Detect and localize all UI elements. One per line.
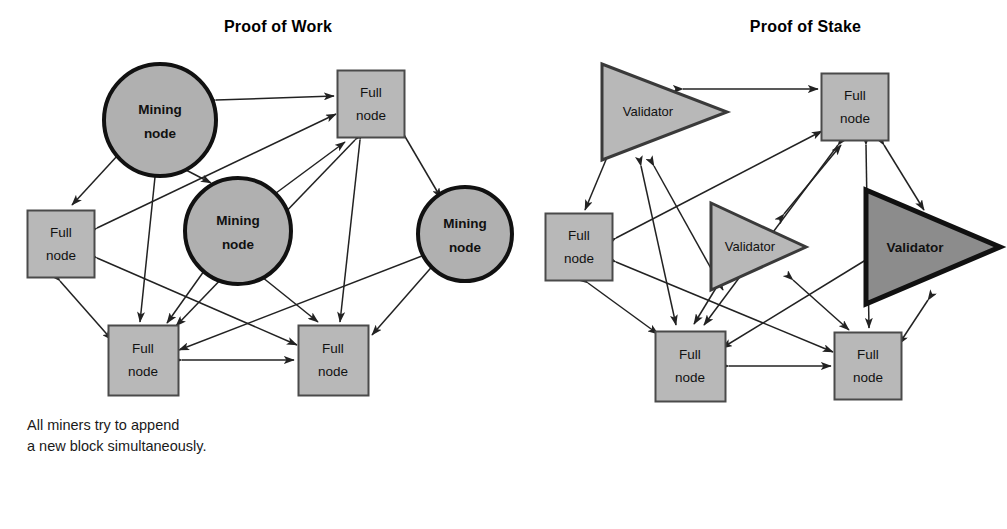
pos-node-full-botright-label-2: node	[853, 370, 883, 385]
pow-node-full-topright[interactable]: Full node	[338, 71, 405, 138]
pow-node-group: Mining node Full node Full node Mining n	[28, 64, 513, 396]
pow-node-full-topright-label-1: Full	[360, 85, 382, 100]
pos-node-full-botleft-label-1: Full	[679, 347, 701, 362]
pow-node-mining-top-label-2: node	[144, 126, 177, 141]
pow-node-mining-right-label-1: Mining	[443, 216, 487, 231]
pow-node-full-botright-label-1: Full	[322, 341, 344, 356]
pos-node-group: Validator Full node Full node Validator	[546, 64, 1001, 402]
pos-node-validator-mid[interactable]: Validator	[711, 203, 806, 290]
pos-node-validator-main-label: Validator	[886, 240, 944, 255]
pow-node-mining-right-label-2: node	[449, 240, 482, 255]
pow-node-mining-top[interactable]: Mining node	[104, 64, 216, 176]
proof-of-work-panel: Proof of Work	[0, 0, 520, 529]
proof-of-stake-panel: Proof of Stake	[520, 0, 1007, 529]
pow-node-full-topright-label-2: node	[356, 108, 386, 123]
pow-node-mining-mid-label-2: node	[222, 237, 255, 252]
pow-node-full-botright-label-2: node	[318, 364, 348, 379]
pos-edge-validatormain-fullbotright	[899, 300, 928, 344]
proof-of-stake-graph: Validator Full node Full node Validator	[520, 0, 1007, 529]
pow-node-full-left-label-1: Full	[50, 225, 72, 240]
pow-edge-miningtop-fullleft	[72, 155, 118, 205]
pos-node-full-left-label-1: Full	[568, 228, 590, 243]
pos-node-full-topright-label-2: node	[840, 111, 870, 126]
pow-node-full-left[interactable]: Full node	[28, 211, 95, 278]
pow-node-mining-right[interactable]: Mining node	[418, 187, 512, 281]
pow-edge-fulltopright-fullbotright	[340, 140, 360, 322]
figure-canvas: Proof of Work	[0, 0, 1007, 529]
pos-node-full-botright[interactable]: Full node	[835, 333, 902, 400]
pos-node-full-botleft-label-2: node	[675, 370, 705, 385]
pow-edge-miningright-fullbotright	[372, 262, 436, 335]
pow-edge-fulltopright-miningright	[400, 128, 441, 198]
pos-edge-validatortop-fullbotleft	[641, 166, 676, 325]
pow-node-mining-mid-label-1: Mining	[216, 213, 260, 228]
pos-node-validator-top-label: Validator	[623, 104, 674, 119]
pow-edge-miningtop-fullbotleft	[140, 177, 155, 322]
pos-edge-validatortop-fullleft	[585, 155, 608, 210]
pow-node-full-left-label-2: node	[46, 248, 76, 263]
pos-node-full-left-label-2: node	[564, 251, 594, 266]
pos-node-full-left[interactable]: Full node	[546, 214, 613, 281]
pow-edge-fullleft-fullbotleft	[60, 281, 112, 340]
pow-edge-miningtop-fulltopright	[216, 96, 334, 100]
pos-node-full-topright-label-1: Full	[844, 88, 866, 103]
pow-node-mining-top-label-1: Mining	[138, 102, 182, 117]
pos-node-full-botright-label-1: Full	[857, 347, 879, 362]
pos-node-validator-top[interactable]: Validator	[602, 64, 727, 160]
pow-node-full-botleft-label-1: Full	[132, 341, 154, 356]
pow-node-full-botright[interactable]: Full node	[299, 326, 369, 396]
pos-edge-fullleft-fullbotleft	[588, 283, 658, 334]
pow-node-mining-mid[interactable]: Mining node	[185, 178, 291, 284]
pow-node-full-botleft-label-2: node	[128, 364, 158, 379]
pos-node-full-topright[interactable]: Full node	[822, 74, 889, 141]
pos-node-validator-mid-label: Validator	[725, 239, 776, 254]
pos-node-validator-main[interactable]: Validator	[866, 190, 1000, 304]
pos-node-full-botleft[interactable]: Full node	[656, 332, 726, 402]
pow-edge-miningtop-miningmid	[186, 170, 211, 183]
pos-edge-validatormid-fullbotleft	[694, 288, 716, 324]
proof-of-work-caption: All miners try to append a new block sim…	[27, 415, 206, 457]
pow-node-full-botleft[interactable]: Full node	[109, 326, 179, 396]
